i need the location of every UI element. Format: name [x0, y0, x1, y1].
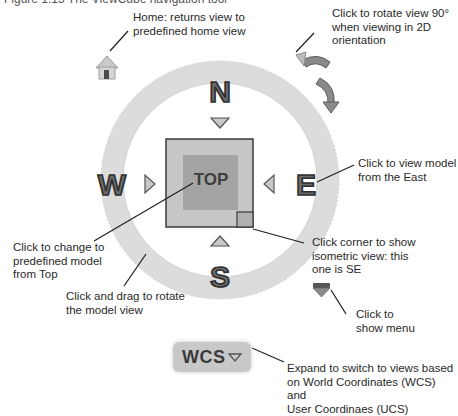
viewcube-face-label[interactable]: TOP	[183, 170, 239, 190]
callout-ring: Click and drag to rotate the model view	[66, 290, 185, 317]
callout-rotate: Click to rotate view 90° when viewing in…	[332, 7, 449, 48]
callout-home: Home: returns view to predefined home vi…	[133, 11, 246, 38]
menu-icon[interactable]	[313, 283, 330, 297]
wcs-label: WCS	[182, 347, 226, 368]
compass-south[interactable]: S	[210, 260, 230, 293]
viewcube-corner-se[interactable]	[237, 212, 253, 227]
east-arrow-icon[interactable]	[264, 175, 274, 193]
rotate-cw-arrow-icon[interactable]	[316, 78, 339, 113]
callout-top: Click to change to predefined model from…	[13, 241, 104, 282]
callout-wcs: Expand to switch to views based on World…	[287, 362, 458, 416]
rotate-ccw-arrow-icon[interactable]	[296, 52, 330, 68]
chevron-down-icon	[228, 353, 242, 362]
south-arrow-icon[interactable]	[211, 236, 229, 246]
compass-west[interactable]: W	[98, 168, 127, 201]
wcs-button[interactable]: WCS	[173, 342, 251, 372]
callout-corner: Click corner to show isometric view: thi…	[312, 236, 416, 277]
compass-north[interactable]: N	[209, 75, 231, 108]
callout-east: Click to view model from the East	[358, 157, 456, 184]
west-arrow-icon[interactable]	[145, 175, 155, 193]
home-icon[interactable]	[96, 56, 118, 79]
north-arrow-icon[interactable]	[211, 118, 229, 128]
compass-east[interactable]: E	[296, 168, 316, 201]
callout-menu: Click to show menu	[356, 308, 415, 335]
